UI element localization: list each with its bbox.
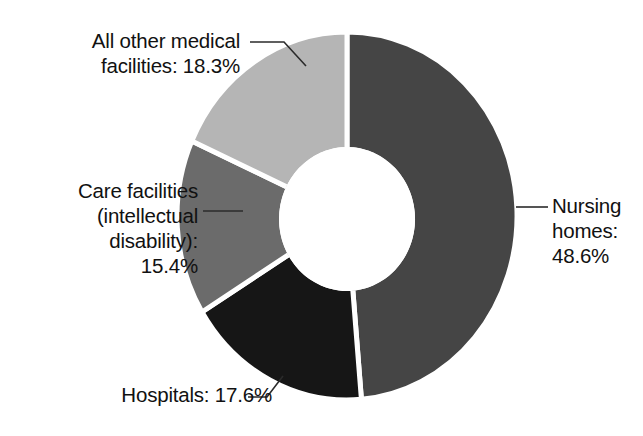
- slice-label-care-facilities: Care facilities (intellectual disability…: [8, 178, 198, 278]
- slice-label-hospitals: Hospitals: 17.6%: [92, 382, 272, 407]
- slice-label-all-other-medical-facilities: All other medical facilities: 18.3%: [40, 28, 240, 78]
- slice-label-nursing-homes: Nursing homes: 48.6%: [552, 193, 643, 268]
- donut-chart: All other medical facilities: 18.3% Care…: [0, 0, 643, 436]
- donut-center-hole: [279, 147, 415, 291]
